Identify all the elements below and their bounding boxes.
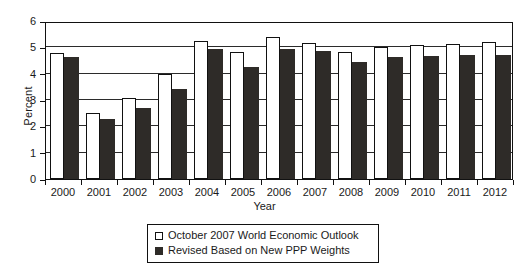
- y-tick-label: 3: [14, 94, 36, 106]
- bar: [410, 45, 425, 179]
- x-tick-label: 2004: [187, 186, 227, 198]
- y-tick-label: 1: [14, 147, 36, 159]
- x-tick-mark: [333, 180, 334, 185]
- bar-group: [262, 23, 298, 179]
- bar: [302, 43, 317, 179]
- legend-swatch-dark-icon: [155, 247, 163, 255]
- x-tick-mark: [153, 180, 154, 185]
- bar: [194, 41, 209, 180]
- legend-swatch-light-icon: [155, 232, 163, 240]
- bar-group: [298, 23, 334, 179]
- bar: [172, 89, 187, 179]
- chart-legend: October 2007 World Economic Outlook Revi…: [147, 224, 379, 263]
- bar: [50, 53, 65, 179]
- x-tick-mark: [513, 180, 514, 185]
- bar: [482, 42, 497, 179]
- bar: [122, 98, 137, 179]
- plot-area: [45, 22, 513, 180]
- legend-label: October 2007 World Economic Outlook: [168, 228, 359, 243]
- bar: [230, 52, 245, 179]
- y-tick-label: 0: [14, 173, 36, 185]
- bar-group: [406, 23, 442, 179]
- x-tick-label: 2001: [79, 186, 119, 198]
- x-tick-label: 2006: [259, 186, 299, 198]
- bar: [266, 37, 281, 179]
- bar-group: [442, 23, 478, 179]
- x-tick-mark: [81, 180, 82, 185]
- bar-group: [154, 23, 190, 179]
- x-tick-mark: [297, 180, 298, 185]
- x-tick-mark: [369, 180, 370, 185]
- x-tick-mark: [45, 180, 46, 185]
- y-tick-label: 2: [14, 120, 36, 132]
- bar: [316, 51, 331, 180]
- x-tick-mark: [405, 180, 406, 185]
- bar: [338, 52, 353, 179]
- bar-group: [478, 23, 514, 179]
- bar: [352, 62, 367, 179]
- y-tick-label: 4: [14, 68, 36, 80]
- x-axis-label: Year: [0, 200, 529, 212]
- bar: [374, 47, 389, 179]
- bar: [388, 57, 403, 179]
- bar-group: [46, 23, 82, 179]
- y-tick-label: 5: [14, 41, 36, 53]
- bar-group: [226, 23, 262, 179]
- bar: [86, 113, 101, 179]
- bar-group: [190, 23, 226, 179]
- y-tick-label: 6: [14, 15, 36, 27]
- bar-series-container: [46, 23, 512, 179]
- bar: [424, 56, 439, 180]
- x-tick-label: 2009: [367, 186, 407, 198]
- x-tick-label: 2005: [223, 186, 263, 198]
- bar-chart: Percent 0123456 200020012002200320042005…: [0, 0, 529, 269]
- legend-item: Revised Based on New PPP Weights: [155, 243, 371, 258]
- legend-label: Revised Based on New PPP Weights: [168, 243, 350, 258]
- x-tick-label: 2000: [43, 186, 83, 198]
- bar: [496, 55, 511, 179]
- x-tick-label: 2007: [295, 186, 335, 198]
- bar-group: [370, 23, 406, 179]
- bar: [244, 67, 259, 179]
- x-tick-mark: [441, 180, 442, 185]
- bar: [136, 108, 151, 179]
- x-tick-mark: [225, 180, 226, 185]
- x-tick-label: 2010: [403, 186, 443, 198]
- x-tick-label: 2008: [331, 186, 371, 198]
- bar-group: [118, 23, 154, 179]
- x-tick-label: 2012: [475, 186, 515, 198]
- bar: [446, 44, 461, 179]
- bar-group: [334, 23, 370, 179]
- bar: [64, 57, 79, 179]
- x-tick-mark: [189, 180, 190, 185]
- bar: [280, 49, 295, 179]
- bar-group: [82, 23, 118, 179]
- bar: [158, 74, 173, 179]
- x-tick-mark: [261, 180, 262, 185]
- x-tick-mark: [477, 180, 478, 185]
- bar: [100, 119, 115, 179]
- x-tick-label: 2003: [151, 186, 191, 198]
- x-tick-label: 2002: [115, 186, 155, 198]
- legend-item: October 2007 World Economic Outlook: [155, 228, 371, 243]
- bar: [208, 49, 223, 179]
- bar: [460, 55, 475, 179]
- x-tick-mark: [117, 180, 118, 185]
- x-tick-label: 2011: [439, 186, 479, 198]
